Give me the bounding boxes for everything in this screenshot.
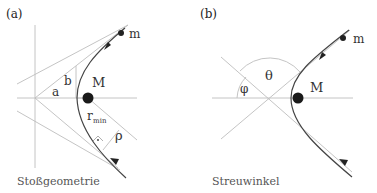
panel-a-label: (a) — [6, 7, 23, 21]
panel-a: (a) m M a — [6, 7, 141, 188]
mass-m-b — [340, 35, 346, 41]
label-m-a: m — [129, 27, 141, 41]
panel-b-label: (b) — [200, 7, 217, 21]
mass-M-a — [83, 93, 94, 104]
label-b: b — [64, 74, 72, 88]
mass-M-b — [293, 93, 304, 104]
label-r-sub: min — [93, 117, 107, 125]
scattering-figure: (a) m M a — [0, 0, 377, 193]
asymptote-upper — [17, 25, 128, 84]
label-theta: θ — [265, 68, 273, 83]
label-M-b: M — [310, 80, 323, 95]
caption-b: Streuwinkel — [212, 175, 280, 188]
label-M-a: M — [92, 75, 105, 90]
trajectory-a — [77, 28, 126, 178]
incoming-asymptote — [221, 57, 352, 172]
label-phi: φ — [240, 82, 248, 96]
label-rho: ρ — [115, 128, 123, 143]
trajectory-b — [291, 30, 352, 177]
label-a: a — [52, 85, 59, 99]
guide-lines-b — [212, 30, 353, 172]
mass-m-a — [118, 30, 124, 36]
label-m-b: m — [353, 32, 365, 46]
asymptote-upper-ray — [35, 25, 128, 98]
caption-a: Stoßgeometrie — [17, 175, 100, 188]
right-angle-dot — [97, 139, 99, 141]
panel-b: (b) m M θ φ Streuwinkel — [200, 7, 365, 188]
